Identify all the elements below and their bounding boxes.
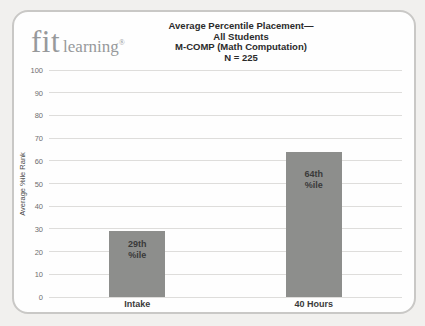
bar-40-hours: 64th%ile bbox=[286, 152, 342, 297]
gridline-y100 bbox=[49, 70, 402, 71]
gridline-y0 bbox=[49, 297, 402, 298]
bar-value-label-line: 29th bbox=[109, 239, 165, 250]
gridline-y10 bbox=[49, 274, 402, 275]
gridline-y30 bbox=[49, 228, 402, 229]
y-axis-title: Average %ile Rank bbox=[18, 152, 27, 216]
bar-intake: 29th%ile bbox=[109, 231, 165, 297]
bar-value-label-intake: 29th%ile bbox=[109, 239, 165, 261]
gridline-y70 bbox=[49, 138, 402, 139]
gridline-y60 bbox=[49, 160, 402, 161]
chart-card: fitlearning® Average Percentile Placemen… bbox=[12, 10, 416, 314]
y-tick-label-100: 100 bbox=[30, 66, 43, 75]
x-tick-label-40-hours: 40 Hours bbox=[294, 299, 333, 309]
gridline-y80 bbox=[49, 115, 402, 116]
bar-value-label-40-hours: 64th%ile bbox=[286, 169, 342, 191]
y-tick-label-70: 70 bbox=[35, 134, 43, 143]
y-tick-label-50: 50 bbox=[35, 179, 43, 188]
y-tick-label-20: 20 bbox=[35, 247, 43, 256]
bar-value-label-line: %ile bbox=[286, 180, 342, 191]
chart-title-line-4: N = 225 bbox=[169, 53, 314, 64]
registered-trademark-icon: ® bbox=[119, 38, 125, 47]
y-tick-label-30: 30 bbox=[35, 224, 43, 233]
y-tick-label-10: 10 bbox=[35, 270, 43, 279]
logo-brand-text: fit bbox=[31, 24, 60, 59]
y-tick-label-90: 90 bbox=[35, 88, 43, 97]
y-tick-label-60: 60 bbox=[35, 156, 43, 165]
gridline-y90 bbox=[49, 92, 402, 93]
chart-title: Average Percentile Placement— All Studen… bbox=[169, 21, 314, 64]
logo-suffix-text: learning bbox=[63, 37, 119, 56]
y-tick-label-80: 80 bbox=[35, 111, 43, 120]
gridline-y20 bbox=[49, 251, 402, 252]
plot-area: Average %ile Rank 0102030405060708090100… bbox=[49, 70, 402, 297]
bar-value-label-line: %ile bbox=[109, 250, 165, 261]
y-tick-label-0: 0 bbox=[39, 293, 43, 302]
gridline-y40 bbox=[49, 206, 402, 207]
gridline-y50 bbox=[49, 183, 402, 184]
x-tick-label-intake: Intake bbox=[124, 299, 150, 309]
fit-learning-logo: fitlearning® bbox=[31, 24, 125, 60]
bar-value-label-line: 64th bbox=[286, 169, 342, 180]
y-tick-label-40: 40 bbox=[35, 202, 43, 211]
